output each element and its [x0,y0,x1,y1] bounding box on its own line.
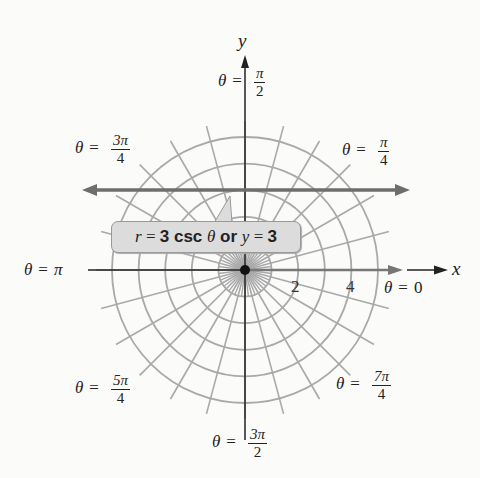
x-axis-arrowhead [434,266,448,275]
fraction: 7π4 [372,369,391,402]
radial-tick-2: 2 [291,277,300,297]
polar-graph-figure: r = 3 csc θ or y = 3 y x 2 4 θ=π2 θ=3π4 … [0,0,480,478]
callout-pointer [214,196,232,223]
zero-value: 0 [414,278,423,297]
equation-callout: r = 3 csc θ or y = 3 [111,221,301,253]
equals-sign: = [356,140,366,159]
callout-r: r [135,227,142,247]
radial-tick-4: 4 [346,277,355,297]
angle-label-5pi-over-4: θ=5π4 [75,373,130,406]
equals-sign: = [89,138,99,157]
callout-or: or [215,227,241,247]
angle-label-pi: θ=π [24,261,62,278]
angle-label-zero: θ=0 [384,279,422,296]
numerator: 3π [248,427,267,444]
pi-symbol: π [54,260,63,279]
fraction: 3π4 [111,133,130,166]
x-axis-label: x [452,258,460,280]
theta-symbol: θ [342,140,350,159]
callout-csc: csc [169,227,207,247]
fraction: 3π2 [248,427,267,460]
equals-sign: = [398,278,408,297]
callout-equals-2: = [249,227,267,247]
callout-y: y [242,227,250,247]
theta-symbol: θ [75,138,83,157]
theta-symbol: θ [218,71,226,90]
denominator: 4 [380,152,388,168]
theta-symbol: θ [384,278,392,297]
callout-three: 3 [160,227,169,247]
polar-axis-arrowhead [388,265,403,275]
denominator: 2 [256,83,264,99]
equals-sign: = [232,71,242,90]
denominator: 2 [254,444,262,460]
theta-symbol: θ [24,260,32,279]
numerator: 3π [111,133,130,150]
fraction: 5π4 [111,373,130,406]
angle-label-3pi-over-2: θ=3π2 [212,427,267,460]
theta-symbol: θ [336,374,344,393]
numerator: π [378,135,390,152]
line-right-arrowhead [395,184,410,196]
denominator: 4 [117,390,125,406]
pole-point [240,265,250,275]
fraction: π4 [378,135,390,168]
numerator: 7π [372,369,391,386]
angle-label-7pi-over-4: θ=7π4 [336,369,391,402]
y-axis-label: y [238,30,246,52]
callout-equals: = [142,227,160,247]
theta-symbol: θ [212,432,220,451]
equals-sign: = [226,432,236,451]
angle-label-pi-over-2: θ=π2 [218,66,265,99]
equals-sign: = [89,378,99,397]
fraction: π2 [254,66,266,99]
denominator: 4 [378,386,386,402]
equals-sign: = [38,260,48,279]
angle-label-pi-over-4: θ=π4 [342,135,389,168]
callout-theta: θ [207,227,215,247]
theta-symbol: θ [75,378,83,397]
denominator: 4 [117,150,125,166]
numerator: π [254,66,266,83]
numerator: 5π [111,373,130,390]
equals-sign: = [350,374,360,393]
angle-label-3pi-over-4: θ=3π4 [75,133,130,166]
callout-three-2: 3 [267,227,276,247]
line-left-arrowhead [82,184,97,196]
